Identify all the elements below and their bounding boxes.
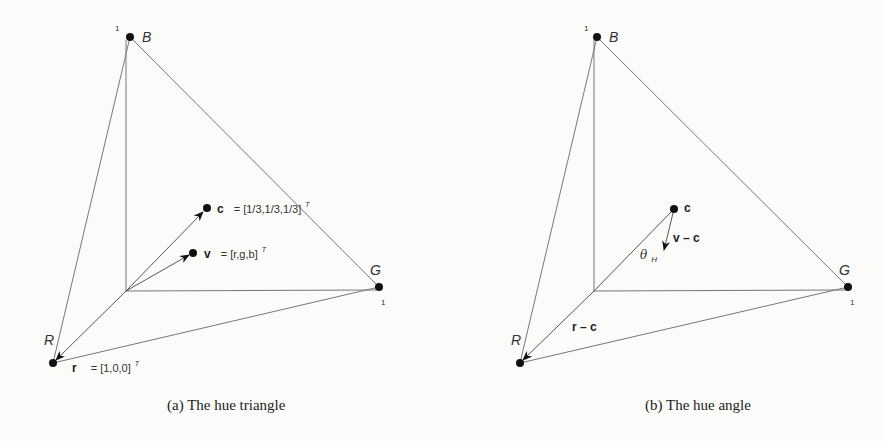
c-point-dot <box>203 204 211 212</box>
c-to-origin-line <box>594 209 674 291</box>
c-point-dot <box>670 205 678 213</box>
edge-b-r <box>53 37 130 363</box>
b-vertex-label: B <box>142 29 151 45</box>
g-vertex-label: G <box>370 262 381 278</box>
b-tick-label: 1 <box>584 24 589 33</box>
v-point-dot <box>189 249 197 257</box>
b-tick-label: 1 <box>115 24 120 33</box>
b-vertex-dot <box>126 33 134 41</box>
green-axis <box>126 290 376 291</box>
r-vector-arrow <box>56 291 126 360</box>
panel-a: 1 B G 1 R c = [1/3,1/3,1/3] T v = [r,g,b… <box>44 24 386 414</box>
g-tick-label: 1 <box>381 298 386 307</box>
edge-b-r <box>520 37 597 363</box>
g-tick-label: 1 <box>850 298 855 307</box>
r-vertex-dot <box>516 359 524 367</box>
g-vertex-label: G <box>839 262 850 278</box>
g-vertex-dot <box>844 283 852 291</box>
c-label: c <box>684 201 691 215</box>
r-vector-label: r = [1,0,0] T <box>72 358 140 375</box>
r-vertex-label: R <box>44 332 54 348</box>
v-vector-label: v = [r,g,b] T <box>204 244 267 261</box>
r-vertex-label: R <box>511 332 521 348</box>
edge-r-g <box>53 287 379 363</box>
v-minus-c-label: v – c <box>673 231 700 245</box>
figure: 1 B G 1 R c = [1/3,1/3,1/3] T v = [r,g,b… <box>0 0 884 441</box>
panel-b: 1 B G 1 R c v – c r – c θ H (b) The hue … <box>511 24 855 414</box>
b-vertex-dot <box>593 33 601 41</box>
g-vertex-dot <box>375 283 383 291</box>
b-vertex-label: B <box>609 29 618 45</box>
theta-h-label: θ H <box>640 245 657 264</box>
green-axis <box>594 290 845 291</box>
diagram-canvas: 1 B G 1 R c = [1/3,1/3,1/3] T v = [r,g,b… <box>0 0 884 441</box>
caption-b: (b) The hue angle <box>645 397 751 414</box>
v-vector-arrow <box>126 255 189 291</box>
caption-a: (a) The hue triangle <box>167 397 286 414</box>
r-minus-c-label: r – c <box>572 320 597 334</box>
r-vertex-dot <box>49 359 57 367</box>
edge-r-g <box>520 287 848 363</box>
c-vector-label: c = [1/3,1/3,1/3] T <box>217 199 310 216</box>
